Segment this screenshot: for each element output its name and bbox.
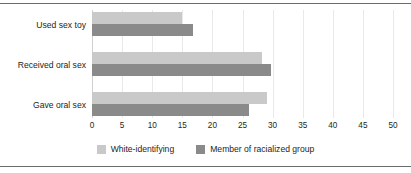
plot-area (92, 10, 393, 118)
top-rule (0, 3, 411, 4)
bar (92, 64, 271, 76)
x-tick-label-10: 10 (148, 121, 157, 130)
bar-chart-figure: Used sex toyReceived oral sexGave oral s… (0, 0, 411, 173)
legend-swatch-icon (196, 145, 205, 154)
x-tick-label-45: 45 (358, 121, 367, 130)
bar (92, 104, 249, 116)
x-axis-tick-labels: 05101520253035404550 (92, 121, 393, 133)
gridline-30 (273, 10, 274, 118)
x-tick-label-35: 35 (298, 121, 307, 130)
gridline-35 (303, 10, 304, 118)
category-label: Used sex toy (2, 20, 86, 30)
legend-label: White-identifying (111, 144, 175, 154)
legend-item: White-identifying (97, 144, 175, 154)
category-axis-labels: Used sex toyReceived oral sexGave oral s… (0, 10, 86, 118)
x-tick-label-15: 15 (178, 121, 187, 130)
x-tick-label-20: 20 (208, 121, 217, 130)
chart-legend: White-identifyingMember of racialized gr… (0, 142, 411, 156)
category-label: Received oral sex (2, 60, 86, 70)
bar (92, 52, 262, 64)
legend-item: Member of racialized group (196, 144, 314, 154)
category-label: Gave oral sex (2, 100, 86, 110)
x-tick-label-5: 5 (120, 121, 125, 130)
x-tick-label-50: 50 (388, 121, 397, 130)
gridline-50 (393, 10, 394, 118)
gridline-40 (333, 10, 334, 118)
x-tick-label-0: 0 (90, 121, 95, 130)
x-tick-label-40: 40 (328, 121, 337, 130)
bar (92, 92, 267, 104)
x-tick-label-25: 25 (238, 121, 247, 130)
legend-label: Member of racialized group (210, 144, 314, 154)
x-tick-label-30: 30 (268, 121, 277, 130)
legend-swatch-icon (97, 145, 106, 154)
gridline-45 (363, 10, 364, 118)
bottom-rule (0, 166, 411, 167)
bar (92, 24, 193, 36)
bar (92, 12, 182, 24)
